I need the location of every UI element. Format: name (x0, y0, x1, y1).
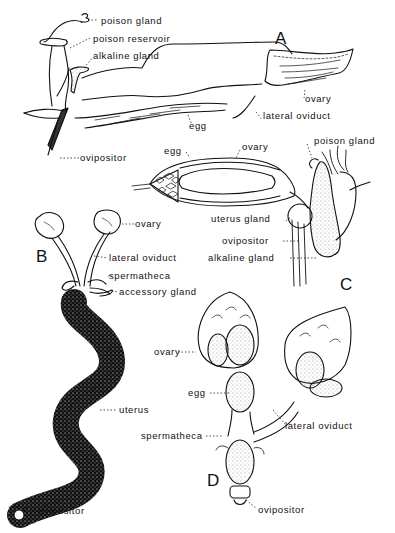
label-c-ovipositor: ovipositor (222, 236, 269, 246)
panel-letter-b: B (36, 248, 47, 265)
label-a-ovary: ovary (305, 94, 331, 104)
panel-letter-d: D (207, 472, 219, 489)
label-c-egg: egg (164, 146, 182, 156)
label-c-alkaline-gland: alkaline gland (208, 253, 275, 263)
panel-a-drawing (24, 14, 353, 155)
label-a-ovipositor: ovipositor (80, 153, 127, 163)
label-b-ovary: ovary (135, 219, 161, 229)
panel-d-drawing (198, 292, 351, 505)
label-a-poison-reservoir: poison reservoir (93, 34, 170, 44)
panel-b-drawing (9, 210, 120, 520)
label-c-ovary: ovary (242, 142, 268, 152)
label-b-ovipositor: ovipositor (38, 506, 85, 516)
label-a-alkaline-gland: alkaline gland (93, 51, 160, 61)
label-a-egg: egg (189, 121, 207, 131)
label-d-spermatheca: spermatheca (141, 431, 203, 441)
label-b-spermatheca: spermatheca (109, 271, 171, 281)
label-a-lateral-oviduct: lateral oviduct (263, 111, 331, 121)
label-b-uterus: uterus (119, 405, 149, 415)
panel-letter-a: A (275, 30, 286, 47)
panel-letter-c: C (340, 276, 352, 293)
label-d-ovipositor: ovipositor (258, 505, 305, 515)
label-b-accessory-gland: accessory gland (119, 287, 197, 297)
label-c-poison-gland: poison gland (314, 136, 375, 146)
label-d-lateral-oviduct: lateral oviduct (285, 421, 353, 431)
label-a-poison-gland: poison gland (101, 16, 162, 26)
label-d-ovary: ovary (154, 347, 180, 357)
reproductive-system-diagram (0, 0, 395, 533)
label-b-lateral-oviduct: lateral oviduct (109, 253, 177, 263)
label-c-uterus-gland: uterus gland (211, 214, 271, 224)
label-d-egg: egg (188, 388, 206, 398)
